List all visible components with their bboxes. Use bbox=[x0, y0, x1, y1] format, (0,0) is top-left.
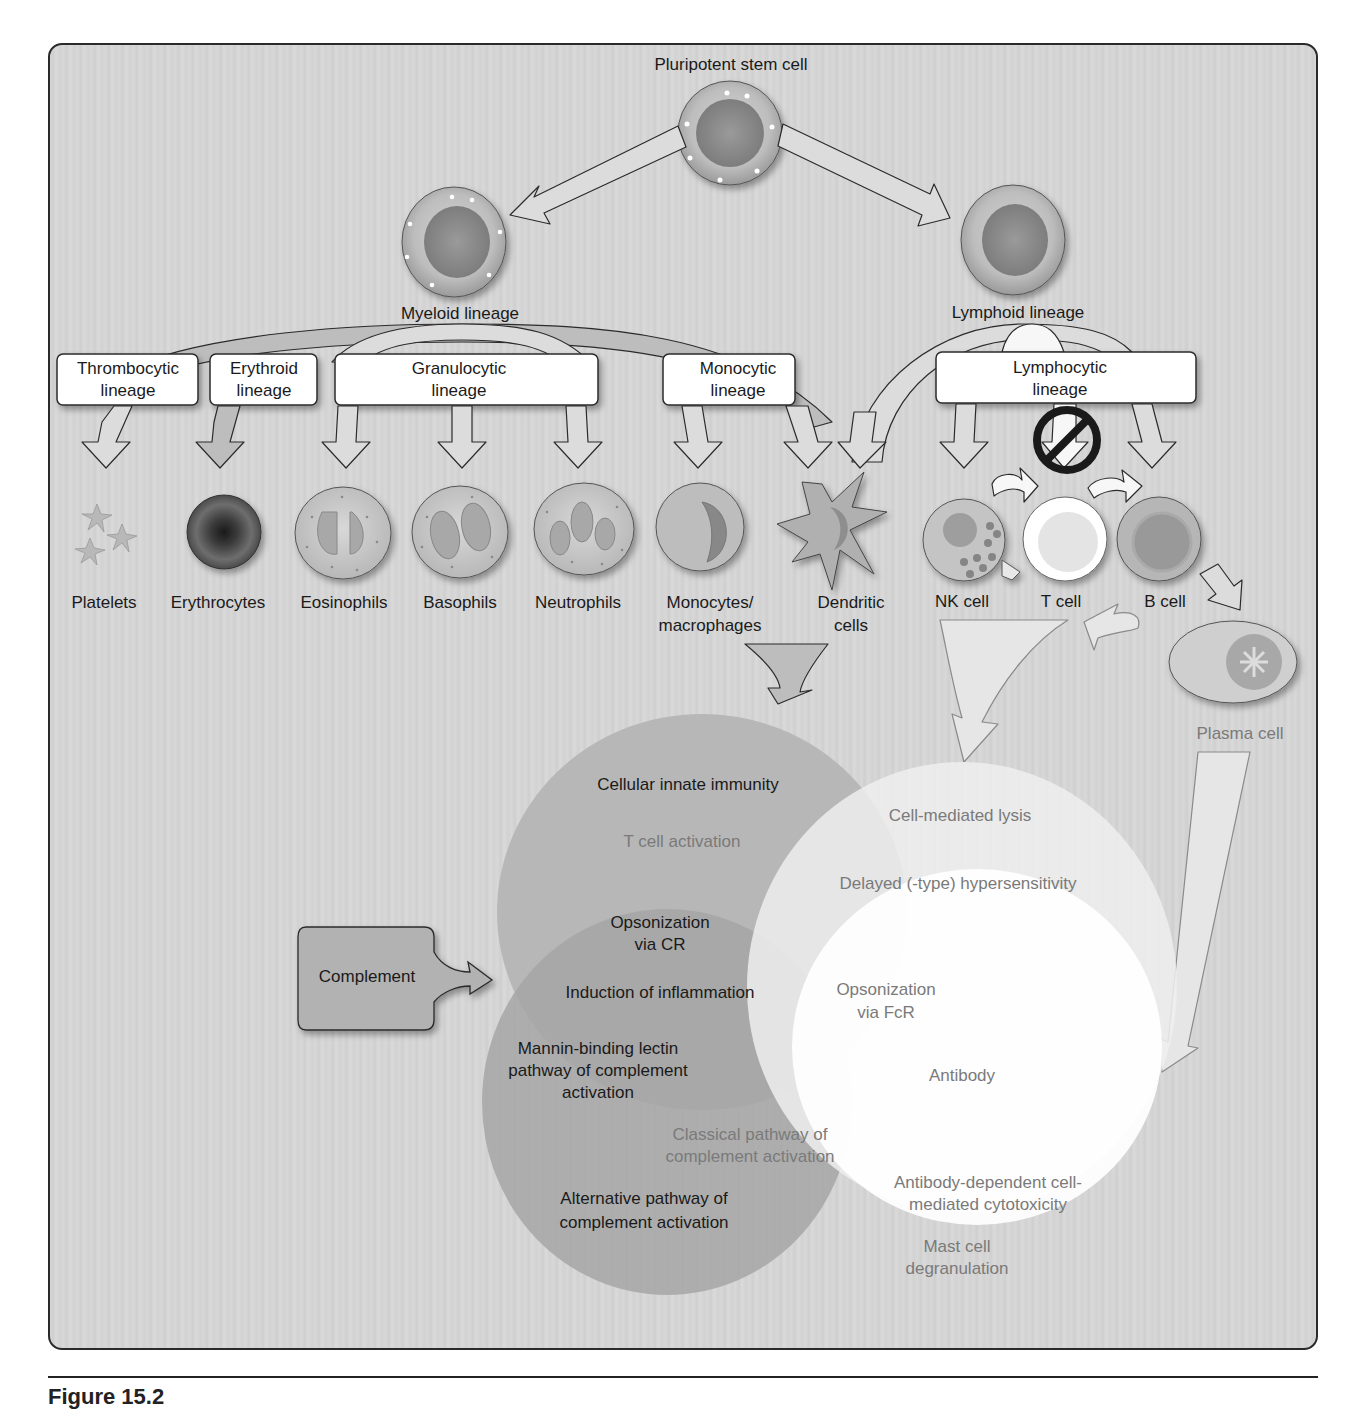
stem-cell-icon bbox=[678, 81, 782, 185]
monocytic-label-1: Monocytic bbox=[700, 359, 777, 378]
t-cell-label: T cell bbox=[1041, 592, 1081, 611]
plasma-cell-label: Plasma cell bbox=[1197, 724, 1284, 743]
b-cell-icon bbox=[1117, 497, 1201, 581]
arrow-stem-to-myeloid bbox=[510, 126, 686, 224]
arrow-b-to-t bbox=[1084, 604, 1139, 650]
label-mbl-2: pathway of complement bbox=[508, 1061, 688, 1080]
arrow-nk-to-t bbox=[992, 468, 1038, 502]
lymphoid-progenitor-icon bbox=[961, 185, 1065, 295]
label-delayed-hypersensitivity: Delayed (-type) hypersensitivity bbox=[839, 874, 1077, 893]
label-antibody: Antibody bbox=[929, 1066, 996, 1085]
label-mbl-3: activation bbox=[562, 1083, 634, 1102]
arrow-stem-to-lymphoid bbox=[778, 124, 950, 226]
plasma-cell-icon bbox=[1169, 621, 1297, 703]
monocytes-icon bbox=[656, 483, 744, 571]
label-mast-1: Mast cell bbox=[923, 1237, 990, 1256]
myeloid-progenitor-icon bbox=[402, 187, 506, 297]
myeloid-lineage-label: Myeloid lineage bbox=[401, 304, 519, 323]
label-adcc-2: mediated cytotoxicity bbox=[909, 1195, 1067, 1214]
arrow-to-monocytes bbox=[674, 406, 722, 468]
arrow-to-erythrocytes bbox=[196, 406, 244, 468]
lymphocytic-label-2: lineage bbox=[1033, 380, 1088, 399]
stem-cell-group: Pluripotent stem cell bbox=[654, 55, 807, 185]
arrow-lymphocytes-to-adaptive bbox=[940, 620, 1068, 762]
label-opsonization-fcr-2: via FcR bbox=[857, 1003, 915, 1022]
dendritic-label-1: Dendritic bbox=[817, 593, 885, 612]
label-cell-mediated-lysis: Cell-mediated lysis bbox=[889, 806, 1032, 825]
stem-cell-label: Pluripotent stem cell bbox=[654, 55, 807, 74]
arrow-myeloid-to-innate bbox=[745, 644, 828, 704]
erythrocytes-icon bbox=[187, 495, 261, 569]
neutrophils-label: Neutrophils bbox=[535, 593, 621, 612]
dendritic-cell-icon bbox=[777, 472, 887, 590]
label-classical-2: complement activation bbox=[665, 1147, 834, 1166]
label-adcc-1: Antibody-dependent cell- bbox=[894, 1173, 1082, 1192]
label-mbl-1: Mannin-binding lectin bbox=[518, 1039, 679, 1058]
arrow-t-to-b bbox=[1088, 470, 1142, 502]
nk-cell-icon bbox=[923, 499, 1020, 581]
thrombocytic-label-2: lineage bbox=[101, 381, 156, 400]
b-cell-label: B cell bbox=[1144, 592, 1186, 611]
caption-rule bbox=[48, 1376, 1318, 1378]
label-classical-1: Classical pathway of bbox=[673, 1125, 828, 1144]
label-opsonization-cr-1: Opsonization bbox=[610, 913, 709, 932]
granulocytic-label-2: lineage bbox=[432, 381, 487, 400]
complement-label: Complement bbox=[319, 967, 416, 986]
platelets-icon bbox=[75, 504, 137, 565]
lymphoid-lineage-label: Lymphoid lineage bbox=[952, 303, 1085, 322]
arrow-to-platelets bbox=[82, 406, 132, 468]
label-opsonization-cr-2: via CR bbox=[634, 935, 685, 954]
label-alternative-2: complement activation bbox=[559, 1213, 728, 1232]
dendritic-label-2: cells bbox=[834, 616, 868, 635]
label-mast-2: degranulation bbox=[905, 1259, 1008, 1278]
erythroid-label-2: lineage bbox=[237, 381, 292, 400]
eosinophils-label: Eosinophils bbox=[301, 593, 388, 612]
neutrophils-icon bbox=[534, 483, 634, 575]
arrow-to-basophils bbox=[438, 406, 486, 468]
granulocytic-label-1: Granulocytic bbox=[412, 359, 507, 378]
label-t-cell-activation: T cell activation bbox=[624, 832, 741, 851]
monocytic-label-2: lineage bbox=[711, 381, 766, 400]
basophils-label: Basophils bbox=[423, 593, 497, 612]
thrombocytic-label-1: Thrombocytic bbox=[77, 359, 180, 378]
label-opsonization-fcr-1: Opsonization bbox=[836, 980, 935, 999]
arrow-b-to-plasma bbox=[1200, 564, 1242, 610]
erythroid-label-1: Erythroid bbox=[230, 359, 298, 378]
label-cellular-innate-immunity: Cellular innate immunity bbox=[597, 775, 779, 794]
lineage-arrows-down bbox=[82, 404, 1176, 468]
nk-cell-label: NK cell bbox=[935, 592, 989, 611]
lymphocytic-label-1: Lymphocytic bbox=[1013, 358, 1107, 377]
monocytes-label-2: macrophages bbox=[658, 616, 761, 635]
basophils-icon bbox=[412, 486, 508, 578]
label-induction-inflammation: Induction of inflammation bbox=[566, 983, 755, 1002]
arrow-to-neutrophils bbox=[554, 406, 602, 468]
t-cell-icon bbox=[1023, 497, 1107, 581]
figure-caption: Figure 15.2 bbox=[48, 1384, 164, 1410]
figure-frame: Pluripotent stem cell Myeloid lineage Ly… bbox=[48, 43, 1318, 1350]
eosinophils-icon bbox=[295, 487, 391, 579]
arrow-to-nk bbox=[940, 404, 988, 468]
arrow-to-b bbox=[1128, 404, 1176, 468]
platelets-label: Platelets bbox=[71, 593, 136, 612]
erythrocytes-label: Erythrocytes bbox=[171, 593, 265, 612]
label-alternative-1: Alternative pathway of bbox=[560, 1189, 728, 1208]
venn-antibody-circle bbox=[792, 869, 1162, 1225]
monocytes-label-1: Monocytes/ bbox=[667, 593, 754, 612]
arrow-to-eosinophils bbox=[322, 406, 370, 468]
